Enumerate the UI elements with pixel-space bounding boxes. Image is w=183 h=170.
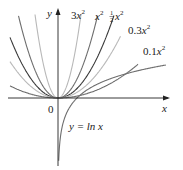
curves [10, 15, 166, 161]
chart: y x 0 3x2 x2 1 2 x2 0.3x2 0.1x2 y = ln x [0, 0, 183, 170]
y-axis-label: y [46, 7, 52, 19]
curve-ln-x [59, 65, 166, 161]
label-0.1x2: 0.1x2 [143, 44, 166, 57]
x-axis-label: x [161, 102, 167, 114]
svg-text:2: 2 [110, 16, 113, 23]
y-axis-arrow-icon [56, 8, 61, 15]
curve-1-2-x-2 [10, 16, 114, 99]
label-x2: x2 [94, 9, 104, 22]
label-half-x2: 1 2 x2 [110, 9, 124, 23]
label-ln-x: y = ln x [68, 120, 103, 132]
origin-label: 0 [48, 103, 54, 115]
label-0.3x2: 0.3x2 [128, 23, 151, 36]
curve-0.1x-2 [10, 64, 138, 98]
x-axis-arrow-icon [163, 96, 170, 101]
svg-text:1: 1 [110, 9, 113, 16]
label-3x2: 3x2 [71, 8, 85, 21]
svg-text:x2: x2 [114, 9, 124, 22]
